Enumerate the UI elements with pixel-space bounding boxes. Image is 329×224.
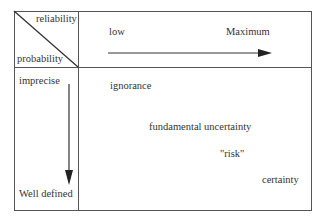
horizontal-arrow-icon — [108, 49, 272, 57]
axis-well-defined-label: Well defined — [19, 188, 73, 199]
region-certainty: certainty — [262, 174, 299, 185]
reliability-label: reliability — [36, 13, 77, 24]
axis-imprecise-label: imprecise — [19, 75, 60, 86]
vertical-arrow-icon — [65, 84, 73, 185]
region-ignorance: ignorance — [110, 80, 151, 91]
axis-maximum-label: Maximum — [226, 26, 270, 37]
region-risk: "risk" — [220, 148, 244, 159]
axis-low-label: low — [109, 26, 125, 37]
region-fundamental-uncertainty: fundamental uncertainty — [149, 121, 251, 132]
probability-label: probability — [17, 53, 63, 64]
